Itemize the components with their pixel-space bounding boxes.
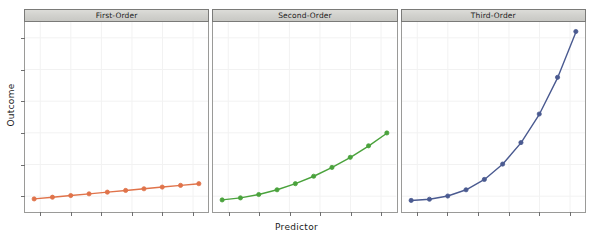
data-point xyxy=(87,192,91,196)
data-point xyxy=(32,197,36,201)
y-axis-tick xyxy=(21,196,25,197)
data-point xyxy=(330,165,334,169)
series-markers xyxy=(25,22,208,212)
data-point xyxy=(294,182,298,186)
panel-strip-label-third-order: Third-Order xyxy=(471,12,516,20)
data-point xyxy=(124,188,128,192)
y-axis-label: Outcome xyxy=(0,0,22,210)
x-axis-tick xyxy=(162,212,163,216)
data-point xyxy=(142,187,146,191)
y-axis-tick xyxy=(21,101,25,102)
x-axis-tick xyxy=(381,212,382,216)
x-axis-label: Predictor xyxy=(0,222,593,232)
y-axis-tick xyxy=(21,133,25,134)
x-axis-tick xyxy=(132,212,133,216)
panel-first-order: First-Order xyxy=(24,9,209,213)
panel-second-order: Second-Order xyxy=(212,9,397,213)
data-point xyxy=(312,174,316,178)
x-axis-tick xyxy=(259,212,260,216)
data-point xyxy=(367,144,371,148)
data-point xyxy=(69,193,73,197)
data-point xyxy=(275,188,279,192)
x-axis-tick xyxy=(320,212,321,216)
data-point xyxy=(555,75,559,79)
x-axis-tick xyxy=(447,212,448,216)
data-point xyxy=(427,197,431,201)
data-point xyxy=(500,162,504,166)
y-axis-tick xyxy=(21,70,25,71)
series-markers xyxy=(402,22,585,212)
x-axis-tick xyxy=(71,212,72,216)
plot-area-first-order xyxy=(24,22,209,213)
x-axis-label-text: Predictor xyxy=(275,222,318,232)
data-point xyxy=(197,182,201,186)
data-point xyxy=(257,192,261,196)
data-point xyxy=(537,112,541,116)
x-axis-tick xyxy=(40,212,41,216)
data-point xyxy=(573,29,577,33)
x-axis-tick xyxy=(229,212,230,216)
y-axis-tick xyxy=(21,165,25,166)
data-point xyxy=(220,198,224,202)
series-markers xyxy=(213,22,396,212)
panel-third-order: Third-Order xyxy=(401,9,586,213)
x-axis-tick xyxy=(539,212,540,216)
data-point xyxy=(445,194,449,198)
panel-strip-label-second-order: Second-Order xyxy=(278,12,332,20)
data-point xyxy=(50,195,54,199)
x-axis-tick xyxy=(570,212,571,216)
chart-figure: Outcome First-Order Second-Order Third-O… xyxy=(0,0,593,246)
data-point xyxy=(519,141,523,145)
data-point xyxy=(409,198,413,202)
data-point xyxy=(105,190,109,194)
panel-strip-first-order: First-Order xyxy=(24,9,209,22)
data-point xyxy=(160,185,164,189)
x-axis-tick xyxy=(478,212,479,216)
panel-strip-third-order: Third-Order xyxy=(401,9,586,22)
data-point xyxy=(482,177,486,181)
data-point xyxy=(239,196,243,200)
x-axis-tick xyxy=(509,212,510,216)
y-axis-tick xyxy=(21,38,25,39)
x-axis-tick xyxy=(351,212,352,216)
x-axis-tick xyxy=(193,212,194,216)
data-point xyxy=(464,188,468,192)
y-axis-label-text: Outcome xyxy=(6,83,16,126)
data-point xyxy=(348,155,352,159)
panel-strip-second-order: Second-Order xyxy=(212,9,397,22)
panel-strip-label-first-order: First-Order xyxy=(96,12,138,20)
data-point xyxy=(385,131,389,135)
plot-area-third-order xyxy=(401,22,586,213)
plot-area-second-order xyxy=(212,22,397,213)
data-point xyxy=(178,183,182,187)
x-axis-tick xyxy=(290,212,291,216)
x-axis-tick xyxy=(101,212,102,216)
panel-row: First-Order Second-Order Third-Order xyxy=(24,9,586,213)
x-axis-tick xyxy=(417,212,418,216)
